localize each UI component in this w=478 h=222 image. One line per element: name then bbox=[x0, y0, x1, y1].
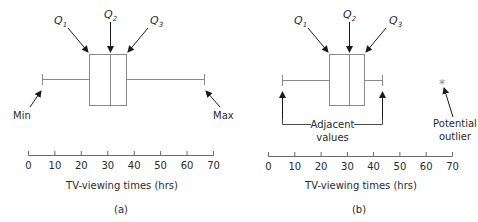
panel-b: Q1 Q2 Q3 * Potential outlier Adjacent va… bbox=[265, 8, 477, 215]
adjacent-label-line2: values bbox=[316, 132, 349, 143]
box-iqr bbox=[90, 55, 127, 106]
q1-label: Q1 bbox=[54, 14, 67, 29]
tick-label: 10 bbox=[288, 161, 301, 172]
bracket-left bbox=[283, 119, 312, 125]
tick-label: 60 bbox=[181, 160, 194, 171]
x-axis-label-a: TV-viewing times (hrs) bbox=[65, 180, 178, 191]
boxplot-diagram: Q1 Q2 Q3 Min Max 0 bbox=[0, 0, 478, 222]
q2-label: Q2 bbox=[343, 8, 357, 23]
outlier-label-line1: Potential bbox=[433, 118, 477, 129]
q1-arrow-icon bbox=[68, 28, 88, 52]
tick-label: 30 bbox=[101, 160, 114, 171]
tick-label: 50 bbox=[154, 160, 167, 171]
tick-label: 70 bbox=[446, 161, 459, 172]
q2-label: Q2 bbox=[104, 8, 118, 23]
tick-label: 30 bbox=[341, 161, 354, 172]
q1-label: Q1 bbox=[294, 14, 307, 29]
adjacent-label-line1: Adjacent bbox=[311, 119, 355, 130]
tick-label: 10 bbox=[49, 160, 62, 171]
q3-label: Q3 bbox=[389, 14, 402, 29]
min-label: Min bbox=[13, 110, 31, 121]
tick-label: 70 bbox=[207, 160, 220, 171]
q3-label: Q3 bbox=[150, 14, 163, 29]
q3-arrow-icon bbox=[128, 28, 148, 52]
min-arrow-icon bbox=[30, 91, 41, 107]
tick-label: 20 bbox=[75, 160, 88, 171]
q3-arrow-icon bbox=[366, 28, 386, 52]
box-iqr bbox=[330, 55, 365, 106]
tick-label: 60 bbox=[420, 161, 433, 172]
tick-label: 0 bbox=[25, 160, 31, 171]
outlier-label-line2: outlier bbox=[439, 131, 472, 142]
x-axis-b: 0 10 20 30 40 50 60 70 bbox=[265, 152, 459, 172]
panel-caption-b: (b) bbox=[352, 204, 366, 215]
max-label: Max bbox=[213, 110, 234, 121]
q1-arrow-icon bbox=[308, 28, 328, 52]
tick-label: 40 bbox=[128, 160, 141, 171]
tick-label: 0 bbox=[265, 161, 271, 172]
panel-a: Q1 Q2 Q3 Min Max 0 bbox=[13, 8, 234, 215]
outlier-arrow-icon bbox=[444, 88, 453, 117]
tick-label: 20 bbox=[315, 161, 328, 172]
x-axis-label-b: TV-viewing times (hrs) bbox=[304, 180, 417, 191]
tick-label: 40 bbox=[367, 161, 380, 172]
tick-label: 50 bbox=[394, 161, 407, 172]
max-arrow-icon bbox=[206, 91, 220, 107]
x-axis-a: 0 10 20 30 40 50 60 70 bbox=[25, 151, 220, 171]
panel-caption-a: (a) bbox=[114, 204, 128, 215]
bracket-right bbox=[354, 119, 383, 125]
